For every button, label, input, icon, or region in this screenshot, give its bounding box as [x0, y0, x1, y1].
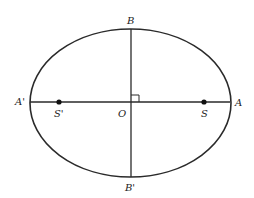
label-s: S — [201, 108, 208, 119]
label-s-prime: S' — [54, 108, 64, 119]
label-a: A — [234, 97, 242, 108]
label-a-prime: A' — [14, 96, 25, 107]
right-angle-marker — [131, 95, 139, 102]
label-b: B — [126, 15, 134, 26]
label-o: O — [118, 108, 126, 119]
focus-left-point — [56, 99, 61, 104]
label-b-prime: B' — [124, 182, 135, 193]
focus-right-point — [201, 99, 206, 104]
ellipse-diagram: B B' A' A O S' S — [0, 0, 254, 198]
